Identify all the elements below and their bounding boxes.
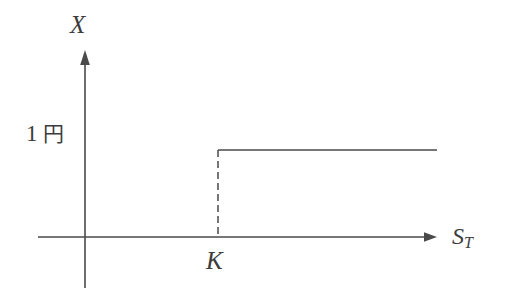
payoff-value-label: 1円 [26, 122, 64, 145]
x-axis-label-base: S [452, 223, 464, 249]
strike-label: K [206, 248, 223, 273]
x-axis-arrowhead [424, 232, 437, 242]
y-axis-label: X [70, 12, 85, 37]
payoff-diagram: X 1円 K ST [0, 0, 507, 288]
payoff-amount: 1 [26, 121, 38, 146]
payoff-plot [0, 0, 507, 288]
y-axis-arrowhead [80, 50, 90, 65]
payoff-currency-unit: 円 [43, 122, 64, 146]
x-axis-label: ST [452, 224, 473, 251]
x-axis-label-subscript: T [464, 234, 473, 251]
